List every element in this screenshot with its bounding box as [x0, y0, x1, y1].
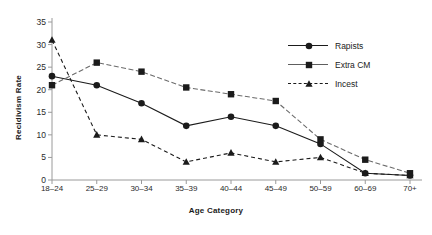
chart-legend: RapistsExtra CMIncest	[288, 36, 370, 93]
legend-marker-circle-icon	[303, 42, 315, 54]
x-axis-title: Age Category	[0, 206, 432, 215]
y-axis-tick-label: 25	[22, 62, 46, 72]
legend-label: Incest	[335, 79, 358, 89]
y-axis-tick-label: 20	[22, 85, 46, 95]
y-axis-tick-label: 10	[22, 130, 46, 140]
y-axis-tick-label: 15	[22, 107, 46, 117]
legend-key-swatch	[288, 59, 328, 71]
legend-key-swatch	[288, 40, 328, 52]
legend-marker-triangle-icon	[303, 80, 315, 92]
legend-item-extra-cm[interactable]: Extra CM	[288, 55, 370, 74]
legend-marker-square-icon	[303, 61, 315, 73]
legend-key-swatch	[288, 78, 328, 90]
chart-figure: Recidivism Rate Age Category 05101520253…	[0, 0, 432, 235]
y-axis-tick-label: 35	[22, 17, 46, 27]
legend-item-incest[interactable]: Incest	[288, 74, 370, 93]
y-axis-tick-label: 30	[22, 40, 46, 50]
legend-item-rapists[interactable]: Rapists	[288, 36, 370, 55]
x-axis-tick-label: 70+	[380, 184, 432, 193]
legend-label: Extra CM	[335, 60, 370, 70]
y-axis-tick-label: 5	[22, 152, 46, 162]
legend-label: Rapists	[335, 41, 363, 51]
